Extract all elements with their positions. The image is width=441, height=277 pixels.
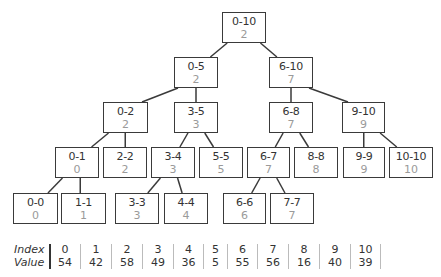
node-range: 3-4: [152, 151, 194, 163]
index-cell: 3: [143, 243, 173, 256]
tree-node: 0-10: [55, 147, 99, 178]
table-column: 1039: [351, 243, 380, 270]
node-range: 10-10: [390, 151, 432, 163]
node-value: 6: [224, 209, 265, 222]
value-cell: 58: [112, 256, 142, 269]
node-range: 0-1: [56, 151, 98, 163]
node-value: 0: [14, 209, 57, 222]
node-range: 6-8: [270, 106, 312, 118]
tree-edge: [180, 133, 188, 147]
index-cell: 1: [81, 243, 111, 256]
tree-edge: [277, 178, 285, 193]
tree-node: 9-99: [343, 147, 385, 178]
node-range: 9-10: [343, 106, 384, 118]
table-column: 142: [81, 243, 111, 270]
node-range: 3-3: [116, 197, 158, 209]
tree-node: 0-52: [174, 57, 218, 88]
node-range: 0-10: [223, 16, 265, 28]
value-cell: 39: [351, 256, 380, 269]
value-cell: 16: [289, 256, 319, 269]
node-value: 7: [270, 73, 312, 86]
node-range: 2-2: [104, 151, 146, 163]
node-value: 4: [165, 209, 207, 222]
column-separator: [380, 244, 381, 269]
tree-node: 6-66: [223, 193, 266, 224]
tree-node: 10-1010: [389, 147, 433, 178]
node-value: 3: [175, 118, 217, 131]
node-range: 0-2: [104, 106, 147, 118]
tree-node: 8-88: [294, 147, 338, 178]
index-cell: 9: [320, 243, 350, 256]
index-cell: 0: [50, 243, 80, 256]
node-value: 2: [104, 118, 147, 131]
node-range: 9-9: [344, 151, 384, 163]
value-cell: 55: [228, 256, 257, 269]
table-column: 436: [174, 243, 203, 270]
tree-node: 6-77: [247, 147, 290, 178]
tree-edge: [205, 133, 214, 147]
value-cell: 40: [320, 256, 350, 269]
index-row-label: Index: [14, 243, 48, 256]
tree-edge: [275, 133, 283, 147]
tree-edge: [142, 88, 178, 102]
value-cell: 49: [143, 256, 173, 269]
value-row-label: Value: [14, 256, 48, 269]
node-range: 3-5: [175, 106, 217, 118]
tree-edge: [252, 178, 260, 193]
table-column: 55: [204, 243, 227, 270]
tree-edge: [300, 133, 309, 147]
index-cell: 7: [258, 243, 288, 256]
node-range: 0-0: [14, 197, 57, 209]
table-header: Index Value: [14, 243, 48, 270]
tree-node: 0-00: [13, 193, 58, 224]
node-range: 0-5: [175, 61, 217, 73]
array-table: Index Value 0541422583494365565575681694…: [0, 243, 441, 271]
table-column: 756: [258, 243, 288, 270]
node-range: 7-7: [271, 197, 313, 209]
value-cell: 42: [81, 256, 111, 269]
node-range: 4-4: [165, 197, 207, 209]
index-cell: 6: [228, 243, 257, 256]
node-value: 7: [248, 163, 289, 176]
node-value: 5: [200, 163, 242, 176]
node-value: 0: [56, 163, 98, 176]
node-range: 6-10: [270, 61, 312, 73]
tree-node: 6-107: [269, 57, 313, 88]
tree-node: 2-22: [103, 147, 147, 178]
tree-node: 9-109: [342, 102, 385, 133]
tree-edge: [309, 88, 348, 102]
node-value: 3: [116, 209, 158, 222]
node-range: 6-6: [224, 197, 265, 209]
tree-edge: [178, 178, 183, 193]
tree-edge: [48, 178, 63, 193]
node-value: 2: [104, 163, 146, 176]
node-value: 2: [223, 28, 265, 41]
node-value: 1: [62, 209, 105, 222]
tree-node: 7-77: [270, 193, 314, 224]
tree-node: 3-33: [115, 193, 159, 224]
index-cell: 10: [351, 243, 380, 256]
tree-edge: [92, 133, 109, 147]
tree-edge: [210, 43, 227, 57]
value-cell: 56: [258, 256, 288, 269]
node-value: 2: [175, 73, 217, 86]
index-cell: 2: [112, 243, 142, 256]
tree-node: 0-102: [222, 12, 266, 43]
table-column: 054: [50, 243, 80, 270]
tree-node: 0-22: [103, 102, 148, 133]
tree-node: 3-53: [174, 102, 218, 133]
node-range: 8-8: [295, 151, 337, 163]
node-value: 8: [295, 163, 337, 176]
value-cell: 36: [174, 256, 203, 269]
table-column: 816: [289, 243, 319, 270]
tree-edges: [0, 0, 441, 277]
index-cell: 5: [204, 243, 227, 256]
tree-node: 1-11: [61, 193, 106, 224]
value-cell: 54: [50, 256, 80, 269]
node-value: 9: [344, 163, 384, 176]
index-cell: 8: [289, 243, 319, 256]
tree-edge: [260, 43, 276, 57]
node-value: 3: [152, 163, 194, 176]
value-cell: 5: [204, 256, 227, 269]
node-range: 5-5: [200, 151, 242, 163]
